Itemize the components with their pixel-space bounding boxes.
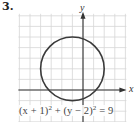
equation-part-3: = 9 <box>96 105 113 116</box>
circle-equation: (x + 1)2 + (y − 2)2 = 9 <box>19 105 113 116</box>
equation-part-2: + (y − 2) <box>52 105 93 116</box>
coordinate-graph <box>0 0 139 122</box>
x-axis-label: x <box>129 83 133 94</box>
y-axis-label: y <box>80 2 84 13</box>
equation-part-1: (x + 1) <box>19 105 48 116</box>
